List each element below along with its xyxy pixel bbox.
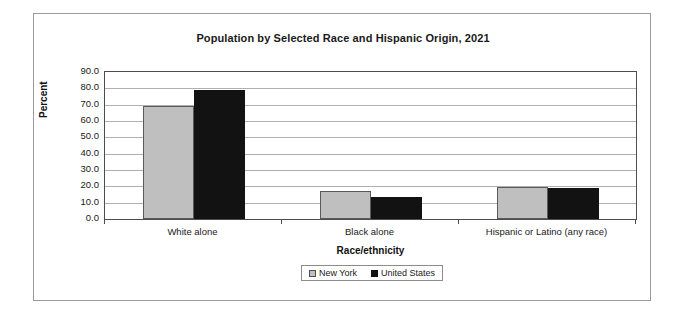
x-axis-tick [104, 219, 105, 224]
legend-label: New York [319, 268, 357, 278]
x-axis-tick [635, 219, 636, 224]
bar [548, 188, 599, 219]
y-axis-tick-label: 20.0 [59, 180, 99, 190]
x-axis-category-label: Black alone [281, 226, 458, 237]
y-axis-title: Percent [38, 81, 49, 118]
legend-swatch-icon [371, 270, 378, 277]
y-axis-tick-label: 90.0 [59, 66, 99, 76]
y-axis-tick-label: 70.0 [59, 99, 99, 109]
bar [143, 106, 194, 219]
x-axis-title: Race/ethnicity [104, 245, 637, 256]
legend-item: New York [309, 268, 357, 278]
y-axis-tick-label: 0.0 [59, 213, 99, 223]
plot-area [104, 71, 637, 220]
bar [194, 90, 245, 219]
bar [497, 187, 548, 219]
x-axis-tick [458, 219, 459, 224]
legend-swatch-icon [309, 270, 316, 277]
x-axis-category-label: White alone [104, 226, 281, 237]
x-axis-ticks [104, 219, 637, 225]
y-axis-tick-label: 60.0 [59, 115, 99, 125]
y-axis-tick-label: 50.0 [59, 131, 99, 141]
legend-label: United States [381, 268, 435, 278]
x-axis-category-labels: White aloneBlack aloneHispanic or Latino… [104, 226, 637, 240]
bar [320, 191, 371, 219]
x-axis-tick [281, 219, 282, 224]
y-axis-tick-label: 40.0 [59, 148, 99, 158]
chart-legend: New YorkUnited States [301, 265, 443, 281]
y-axis-tick-labels: 90.080.070.060.050.040.030.020.010.00.0 [57, 71, 99, 218]
y-axis-tick-label: 10.0 [59, 197, 99, 207]
x-axis-category-label: Hispanic or Latino (any race) [458, 226, 635, 237]
y-axis-tick-label: 30.0 [59, 164, 99, 174]
y-axis-tick-label: 80.0 [59, 82, 99, 92]
chart-canvas: Population by Selected Race and Hispanic… [0, 0, 686, 321]
legend-item: United States [371, 268, 435, 278]
bar [371, 197, 422, 219]
gridline [105, 88, 636, 89]
chart-title: Population by Selected Race and Hispanic… [0, 32, 686, 44]
